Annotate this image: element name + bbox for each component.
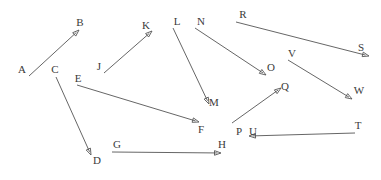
edge-g-h	[112, 151, 221, 156]
edge-line	[232, 90, 278, 123]
node-label-t: T	[355, 120, 362, 131]
node-label-w: W	[354, 85, 364, 96]
edge-arrowhead	[345, 94, 352, 99]
node-label-c: C	[51, 64, 58, 75]
edge-line	[195, 28, 263, 73]
node-label-a: A	[18, 64, 26, 75]
edge-v-w	[288, 60, 352, 99]
graph-edges-layer	[0, 0, 381, 180]
edge-j-k	[104, 31, 152, 73]
edge-line	[173, 28, 207, 101]
edge-l-m	[173, 28, 209, 104]
edge-n-o	[195, 28, 266, 75]
node-label-n: N	[197, 16, 205, 27]
edge-r-s	[236, 22, 369, 57]
edge-line	[236, 22, 366, 55]
edge-line	[253, 133, 355, 136]
node-label-k: K	[142, 20, 150, 31]
edge-group	[29, 22, 369, 155]
edge-line	[112, 152, 217, 153]
edge-c-d	[56, 77, 91, 155]
edge-line	[104, 33, 149, 73]
edge-line	[288, 60, 349, 97]
node-label-u: U	[249, 126, 257, 137]
node-label-e: E	[75, 73, 82, 84]
edge-t-u	[249, 133, 355, 138]
node-label-p: P	[236, 126, 242, 137]
edge-line	[56, 77, 90, 152]
node-label-l: L	[174, 16, 181, 27]
node-label-r: R	[239, 9, 246, 20]
edge-line	[77, 85, 196, 121]
node-label-b: B	[76, 17, 83, 28]
node-label-q: Q	[281, 81, 289, 92]
graph-diagram: ABCDEFGHJKLMNOPQRSTUVW	[0, 0, 381, 180]
node-label-s: S	[358, 42, 364, 53]
node-label-g: G	[113, 139, 121, 150]
node-label-m: M	[209, 97, 219, 108]
node-label-o: O	[267, 62, 275, 73]
edge-arrowhead	[362, 52, 369, 56]
edge-e-f	[77, 85, 199, 122]
node-label-f: F	[198, 124, 204, 135]
node-label-h: H	[218, 139, 226, 150]
node-label-j: J	[97, 61, 101, 72]
edge-p-q	[232, 88, 281, 123]
node-label-v: V	[288, 48, 296, 59]
edge-arrowhead	[86, 148, 91, 155]
node-label-d: D	[93, 155, 101, 166]
